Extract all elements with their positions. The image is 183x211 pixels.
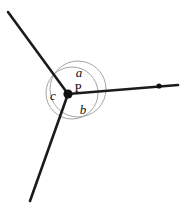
angle-label-b: b [80, 102, 87, 117]
angle-label-a: a [76, 65, 83, 80]
figure-canvas: P a b c [0, 0, 183, 211]
ray-right-endpoint-dot [156, 83, 161, 88]
angle-label-c: c [50, 88, 56, 103]
vertex-point-dot [63, 89, 72, 98]
geometry-figure: P a b c [0, 0, 183, 211]
vertex-label-p: P [74, 80, 81, 95]
figure-background [0, 0, 183, 211]
